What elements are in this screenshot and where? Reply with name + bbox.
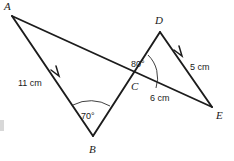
length-label-AB: 11 cm (18, 78, 42, 88)
vertex-label-E: E (215, 109, 223, 121)
vertex-label-C: C (131, 80, 139, 92)
angle-label-C: 80° (131, 59, 145, 69)
diagram-canvas: A B C D E 11 cm 5 cm 6 cm 70° 80° (0, 0, 234, 161)
vertex-label-D: D (154, 14, 163, 26)
length-label-CE: 6 cm (150, 93, 170, 103)
length-label-DE: 5 cm (190, 62, 210, 72)
angle-arc-at-C (148, 55, 158, 88)
segment-B-D (93, 32, 160, 136)
angle-arc-at-B (73, 101, 110, 106)
vertex-label-A: A (3, 0, 11, 12)
edge-artifact (0, 120, 4, 131)
vertex-label-B: B (89, 143, 96, 155)
angle-label-B: 70° (81, 111, 95, 121)
geometry-figure: A B C D E 11 cm 5 cm 6 cm 70° 80° (0, 0, 234, 161)
